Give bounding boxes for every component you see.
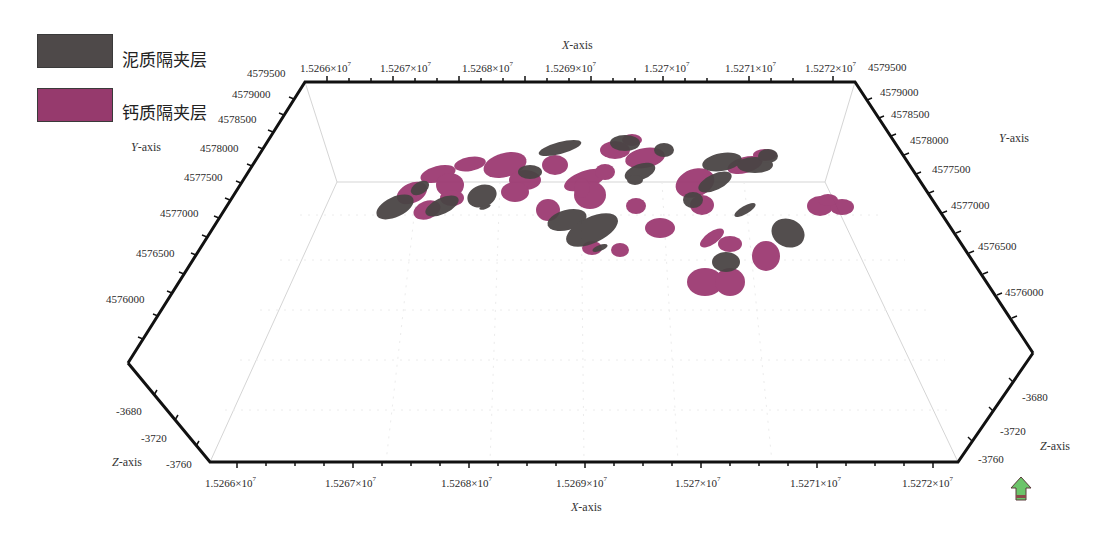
y-left-label: 4579500 <box>247 67 286 79</box>
z-left-label: -3680 <box>116 405 142 417</box>
x-bottom-label: 1.5267×107 <box>325 477 376 489</box>
z-right-label: -3760 <box>978 453 1004 465</box>
inner-box <box>210 82 958 462</box>
y-left-label: 4577000 <box>160 207 199 219</box>
x-axis-title-top: X-axis <box>562 38 593 53</box>
x-top-label: 1.5267×107 <box>380 62 431 74</box>
y-left-label: 4578000 <box>200 142 239 154</box>
x-top-label: 1.5266×107 <box>300 62 351 74</box>
y-right-label: 4579000 <box>880 86 919 98</box>
x-top-label: 1.5269×107 <box>545 62 596 74</box>
y-left-label: 4577500 <box>184 171 223 183</box>
y-right-ticks <box>867 98 1017 318</box>
y-right-label: 4578000 <box>910 134 949 146</box>
y-right-label: 4576000 <box>1005 286 1044 298</box>
x-bottom-label: 1.5272×107 <box>902 477 953 489</box>
x-top-label: 1.5272×107 <box>805 62 856 74</box>
z-left-label: -3720 <box>141 432 167 444</box>
z-axis-title-right: Z-axis <box>1040 439 1070 454</box>
y-left-label: 4576500 <box>136 247 175 259</box>
y-right-label: 4576500 <box>978 240 1017 252</box>
axis-frame <box>128 82 1033 462</box>
y-right-label: 4579500 <box>868 61 907 73</box>
z-right-label: -3680 <box>1022 391 1048 403</box>
x-bottom-label: 1.5268×107 <box>441 477 492 489</box>
x-top-label: 1.5268×107 <box>462 62 513 74</box>
y-right-label: 4578500 <box>891 108 930 120</box>
y-right-label: 4577500 <box>932 163 971 175</box>
x-top-label: 1.5271×107 <box>725 62 776 74</box>
nav-arrow-icon[interactable] <box>1011 477 1031 500</box>
x-bottom-label: 1.5269×107 <box>556 477 607 489</box>
y-axis-title-left: Y-axis <box>131 140 161 155</box>
y-axis-title-right: Y-axis <box>999 131 1029 146</box>
x-bottom-label: 1.527×107 <box>675 477 720 489</box>
z-ticks <box>154 378 1013 446</box>
y-left-label: 4576000 <box>106 293 145 305</box>
y-left-label: 4578500 <box>218 113 257 125</box>
z-left-label: -3760 <box>166 458 192 470</box>
y-right-label: 4577000 <box>951 199 990 211</box>
series-calc <box>393 134 854 296</box>
x-top-label: 1.527×107 <box>644 62 689 74</box>
x-bottom-label: 1.5271×107 <box>790 477 841 489</box>
z-right-label: -3720 <box>1000 425 1026 437</box>
y-left-label: 4579000 <box>232 88 271 100</box>
x-bottom-label: 1.5266×107 <box>205 477 256 489</box>
x-axis-title-bottom: X-axis <box>571 500 602 515</box>
z-axis-title-left: Z-axis <box>112 455 142 470</box>
